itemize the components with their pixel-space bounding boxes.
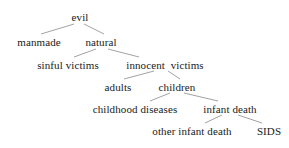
tree-edge-natural-to-sinful-victims [74, 49, 96, 57]
tree-node-other-infant-death: other infant death [152, 126, 231, 137]
tree-edge-children-to-infant-death [184, 93, 218, 101]
tree-node-manmade: manmade [17, 37, 60, 48]
tree-edge-innocent-victims-to-adults [124, 71, 154, 79]
tree-node-sinful-victims: sinful victims [37, 60, 99, 71]
tree-edge-infant-death-to-sids [238, 115, 262, 123]
tree-node-sids: SIDS [257, 126, 281, 137]
tree-edge-evil-to-manmade [41, 24, 74, 34]
tree-edge-infant-death-to-other-infant-death [205, 115, 222, 123]
tree-node-innocent-victims: innocent victims [126, 60, 203, 71]
tree-edge-natural-to-innocent-victims [108, 49, 139, 57]
tree-node-childhood-diseases: childhood diseases [93, 104, 178, 115]
tree-node-natural: natural [85, 37, 116, 48]
tree-node-adults: adults [105, 82, 132, 93]
edge-layer [0, 0, 289, 148]
tree-edge-evil-to-natural [84, 24, 104, 34]
tree-node-evil: evil [72, 12, 89, 23]
tree-edge-innocent-victims-to-children [168, 71, 180, 79]
tree-diagram: evilmanmadenaturalsinful victimsinnocent… [0, 0, 289, 148]
tree-edge-children-to-childhood-diseases [150, 93, 170, 101]
tree-node-children: children [159, 82, 196, 93]
tree-node-infant-death: infant death [203, 104, 256, 115]
